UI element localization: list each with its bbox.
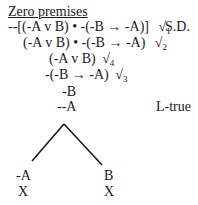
branch-left-closed: X: [18, 184, 28, 200]
branch-right-formula: B: [104, 168, 113, 184]
branch-right-closed: X: [104, 184, 114, 200]
branch-left-formula: -A: [16, 168, 31, 184]
